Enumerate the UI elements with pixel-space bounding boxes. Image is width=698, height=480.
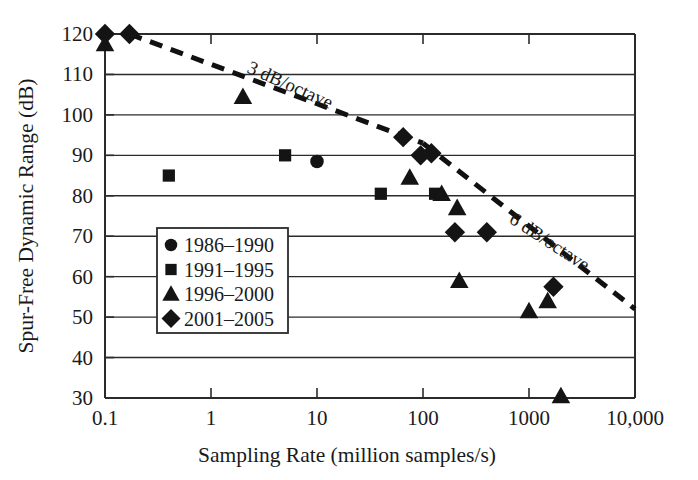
scatter-plot-svg: 3 dB/octave 6 dB/octave 3040506070809010… (0, 0, 698, 480)
square-marker (375, 188, 387, 200)
y-tick-label-50: 50 (72, 305, 93, 329)
y-tick-label-120: 120 (62, 22, 94, 46)
legend-label-4: 2001–2005 (184, 308, 274, 330)
x-tick-label-10: 10 (307, 406, 328, 430)
x-tick-label-0.1: 0.1 (92, 406, 118, 430)
y-tick-label-90: 90 (72, 143, 93, 167)
x-tick-label-10000: 10,000 (606, 406, 664, 430)
y-tick-label-80: 80 (72, 184, 93, 208)
circle-marker (165, 239, 177, 251)
circle-marker (310, 155, 324, 169)
x-tick-label-1: 1 (206, 406, 217, 430)
chart-figure: 3 dB/octave 6 dB/octave 3040506070809010… (0, 0, 698, 480)
square-marker (165, 264, 176, 275)
y-tick-label-110: 110 (62, 62, 93, 86)
x-tick-label-100: 100 (407, 406, 439, 430)
y-tick-label-40: 40 (72, 346, 93, 370)
y-tick-label-60: 60 (72, 265, 93, 289)
legend-label-3: 1996–2000 (184, 283, 274, 305)
square-marker (163, 169, 175, 181)
y-tick-label-100: 100 (62, 103, 94, 127)
y-tick-label-30: 30 (72, 386, 93, 410)
legend-label-2: 1991–1995 (184, 259, 274, 281)
y-tick-label-70: 70 (72, 224, 93, 248)
legend-label-1: 1986–1990 (184, 234, 274, 256)
x-axis-title: Sampling Rate (million samples/s) (198, 443, 496, 467)
chart-legend: 1986–19901991–19951996–20002001–2005 (157, 228, 288, 333)
y-axis-title: Spur-Free Dynamic Range (dB) (14, 79, 38, 354)
x-tick-label-1000: 1000 (508, 406, 550, 430)
square-marker (279, 149, 291, 161)
